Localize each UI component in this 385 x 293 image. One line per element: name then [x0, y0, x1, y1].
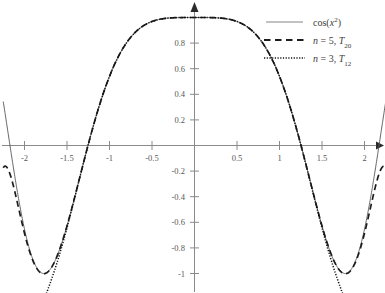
legend-label-n3-T12: n = 3, T12 — [313, 53, 352, 68]
y-tick-label-0.4: 0.4 — [174, 89, 185, 99]
x-tick-label-0.5: 0.5 — [232, 153, 243, 163]
x-tick-label--1.5: -1.5 — [60, 153, 73, 163]
y-tick-label--0.4: -0.4 — [172, 192, 186, 202]
legend-label-n5-T20: n = 5, T20 — [313, 35, 352, 50]
x-tick-label-1.5: 1.5 — [317, 153, 328, 163]
legend-label-cos: cos(x2) — [313, 16, 341, 29]
y-axis-arrow — [191, 2, 199, 12]
y-tick-label-0.8: 0.8 — [174, 38, 185, 48]
chart-figure: -2 -1.5 -1 -0.5 0.5 1 1.5 2 0.8 0.6 0.4 — [0, 0, 385, 293]
y-tick-label--0.2: -0.2 — [172, 166, 185, 176]
chart-canvas: -2 -1.5 -1 -0.5 0.5 1 1.5 2 0.8 0.6 0.4 — [0, 0, 385, 293]
x-tick-label--2: -2 — [21, 153, 28, 163]
y-tick-label--0.8: -0.8 — [172, 243, 185, 253]
x-tick-label-2: 2 — [362, 153, 366, 163]
chart-legend: cos(x2) n = 5, T20 n = 3, T12 — [264, 16, 352, 68]
y-tick-label--0.6: -0.6 — [172, 217, 185, 227]
y-tick-labels-group: 0.8 0.6 0.4 0.2 -0.2 -0.4 -0.6 -0.8 -1 — [172, 38, 186, 278]
y-tick-label-0.2: 0.2 — [174, 115, 185, 125]
y-tick-label-0.6: 0.6 — [174, 64, 185, 74]
x-axis-arrow — [376, 142, 384, 150]
x-tick-label--1: -1 — [106, 153, 113, 163]
x-tick-label--0.5: -0.5 — [145, 153, 158, 163]
x-tick-label-1: 1 — [277, 153, 281, 163]
y-tick-label--1: -1 — [178, 269, 185, 279]
x-tick-labels-group: -2 -1.5 -1 -0.5 0.5 1 1.5 2 — [21, 153, 367, 163]
